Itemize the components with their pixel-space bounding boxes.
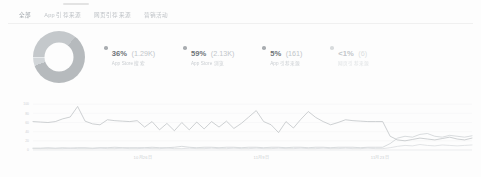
svg-text:0: 0 bbox=[27, 148, 29, 152]
tab-web-referrers[interactable]: 网页引荐来源 bbox=[94, 13, 131, 19]
svg-text:11月9日: 11月9日 bbox=[254, 155, 270, 160]
legend-sublabel: App 引荐来源 bbox=[270, 62, 302, 67]
legend-percent: 59% bbox=[191, 49, 206, 58]
svg-text:80: 80 bbox=[25, 112, 29, 116]
legend-text: 5% (161) App 引荐来源 bbox=[270, 43, 302, 66]
legend-dot-icon bbox=[330, 46, 334, 50]
legend-dot-icon bbox=[262, 46, 266, 50]
svg-text:11月23日: 11月23日 bbox=[371, 155, 389, 160]
legend-count: (6) bbox=[358, 49, 367, 58]
legend-count: (161) bbox=[286, 49, 303, 58]
timeseries-chart[interactable]: 02040608010010月26日11月9日11月23日 bbox=[0, 92, 481, 170]
donut-legend: 36% (1.29K) App Store 搜索 59% (2.13K) App… bbox=[104, 43, 464, 69]
tab-all[interactable]: 全部 bbox=[19, 13, 31, 19]
tab-bar: 全部 App 引荐来源 网页引荐来源 营销活动 bbox=[0, 8, 481, 24]
tab-bar-divider bbox=[8, 23, 473, 24]
legend-sublabel: 网页引荐来源 bbox=[338, 62, 369, 67]
legend-dot-icon bbox=[104, 46, 108, 50]
legend-dot-icon bbox=[183, 46, 187, 50]
tab-campaigns[interactable]: 营销活动 bbox=[144, 13, 169, 19]
legend-count: (2.13K) bbox=[211, 49, 235, 58]
legend-percent: <1% bbox=[338, 49, 354, 58]
donut-chart[interactable] bbox=[33, 31, 88, 83]
svg-text:10月26日: 10月26日 bbox=[134, 155, 152, 160]
svg-text:20: 20 bbox=[25, 139, 29, 143]
legend-count: (1.29K) bbox=[132, 49, 156, 58]
svg-text:60: 60 bbox=[25, 121, 29, 125]
analytics-panel: 全部 App 引荐来源 网页引荐来源 营销活动 36% (1.29K) App … bbox=[0, 0, 481, 177]
legend-item-app-store-browse[interactable]: 59% (2.13K) App Store 浏览 bbox=[183, 43, 234, 66]
donut-ring bbox=[33, 31, 85, 83]
panel-handle bbox=[63, 3, 89, 5]
legend-text: 36% (1.29K) App Store 搜索 bbox=[112, 43, 155, 66]
legend-sublabel: App Store 浏览 bbox=[191, 62, 234, 67]
legend-item-app-store-search[interactable]: 36% (1.29K) App Store 搜索 bbox=[104, 43, 155, 66]
svg-text:40: 40 bbox=[25, 130, 29, 134]
legend-item-web-referrers[interactable]: <1% (6) 网页引荐来源 bbox=[330, 43, 368, 66]
legend-sublabel: App Store 搜索 bbox=[112, 62, 155, 67]
legend-item-app-referrers[interactable]: 5% (161) App 引荐来源 bbox=[262, 43, 302, 66]
legend-percent: 5% bbox=[270, 49, 281, 58]
svg-text:100: 100 bbox=[23, 102, 29, 106]
legend-text: <1% (6) 网页引荐来源 bbox=[338, 43, 369, 66]
timeseries-svg: 02040608010010月26日11月9日11月23日 bbox=[0, 92, 481, 170]
legend-percent: 36% bbox=[112, 49, 127, 58]
legend-text: 59% (2.13K) App Store 浏览 bbox=[191, 43, 234, 66]
tab-app-referrers[interactable]: App 引荐来源 bbox=[44, 13, 81, 19]
